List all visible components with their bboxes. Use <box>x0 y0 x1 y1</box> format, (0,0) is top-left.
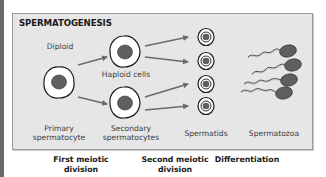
arrow-primary-to-secondary-top <box>78 57 107 65</box>
arrow-secondary-to-spermatid-1 <box>145 37 188 46</box>
secondary-spermatocyte-cell-top <box>110 36 140 67</box>
spermatogenesis-illustration <box>0 0 326 177</box>
spermatid-cell-1 <box>198 29 214 46</box>
second-meiotic-division-line1: Second meiotic <box>137 155 213 165</box>
first-meiotic-division-label: First meiotic division <box>48 155 114 174</box>
primary-spermatocyte-label-line2: spermatocyte <box>28 133 90 142</box>
first-meiotic-division-line1: First meiotic <box>48 155 114 165</box>
primary-spermatocyte-cell <box>44 67 74 98</box>
secondary-spermatocytes-label-line2: spermatocytes <box>98 133 164 142</box>
arrow-secondary-to-spermatid-2 <box>145 57 188 62</box>
spermatozoon-4 <box>241 85 294 100</box>
second-meiotic-division-label: Second meiotic division <box>137 155 213 174</box>
primary-spermatocyte-label-line1: Primary <box>28 124 90 133</box>
arrow-secondary-to-spermatid-3 <box>145 84 188 97</box>
spermatid-cell-3 <box>198 76 214 93</box>
haploid-cells-label: Haploid cells <box>101 70 151 79</box>
arrow-primary-to-secondary-bottom <box>78 97 107 104</box>
spermatozoon-2 <box>252 57 303 75</box>
secondary-spermatocytes-label-line1: Secondary <box>98 124 164 133</box>
spermatozoa-label: Spermatozoa <box>246 129 302 138</box>
differentiation-label: Differentiation <box>211 155 283 165</box>
primary-spermatocyte-label: Primary spermatocyte <box>28 124 90 142</box>
spermatozoon-1 <box>248 43 298 58</box>
secondary-spermatocytes-label: Secondary spermatocytes <box>98 124 164 142</box>
secondary-spermatocyte-cell-bottom <box>110 87 140 118</box>
spermatids-label: Spermatids <box>181 129 231 138</box>
spermatid-cell-2 <box>198 53 214 70</box>
arrow-secondary-to-spermatid-4 <box>145 106 188 110</box>
spermatid-cell-4 <box>198 98 214 115</box>
diploid-label: Diploid <box>44 42 76 51</box>
second-meiotic-division-line2: division <box>137 165 213 175</box>
first-meiotic-division-line2: division <box>48 165 114 175</box>
